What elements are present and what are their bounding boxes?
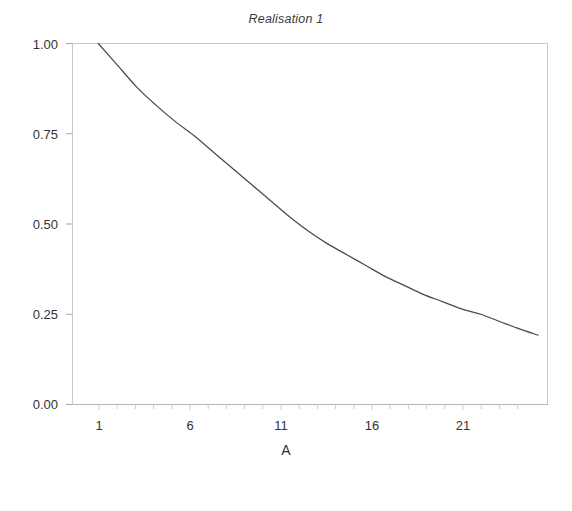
x-axis-ticks xyxy=(99,405,518,411)
x-axis-title: A xyxy=(0,442,572,458)
y-tick-label-3: 0.50 xyxy=(6,218,58,231)
data-series-line xyxy=(98,44,538,336)
y-tick-label-2: 0.75 xyxy=(6,128,58,141)
x-tick-label-1: 1 xyxy=(79,419,119,432)
chart-plot-area xyxy=(0,0,572,511)
x-tick-label-3: 11 xyxy=(261,419,301,432)
x-tick-label-5: 21 xyxy=(443,419,483,432)
y-axis-ticks xyxy=(66,44,73,405)
x-tick-label-2: 6 xyxy=(170,419,210,432)
figure-canvas: Realisation 1 xyxy=(0,0,572,511)
y-tick-label-5: 0.00 xyxy=(6,398,58,411)
y-tick-label-4: 0.25 xyxy=(6,308,58,321)
y-tick-label-1: 1.00 xyxy=(6,38,58,51)
x-tick-label-4: 16 xyxy=(352,419,392,432)
axis-frame xyxy=(73,44,549,405)
